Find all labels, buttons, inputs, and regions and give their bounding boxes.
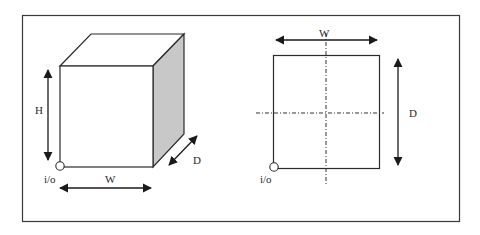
top-width-label: W — [319, 27, 330, 39]
diagram-canvas: H W D i/o W D i/o — [0, 0, 480, 235]
height-label: H — [35, 104, 43, 116]
box-front-face — [60, 66, 153, 167]
width-label: W — [105, 173, 116, 185]
top-io-port-marker — [270, 163, 278, 171]
io-label: i/o — [44, 173, 56, 185]
io-port-marker — [56, 162, 64, 170]
isometric-box — [60, 34, 184, 167]
top-depth-label: D — [409, 107, 417, 119]
top-io-label: i/o — [260, 173, 272, 185]
depth-label: D — [193, 154, 201, 166]
